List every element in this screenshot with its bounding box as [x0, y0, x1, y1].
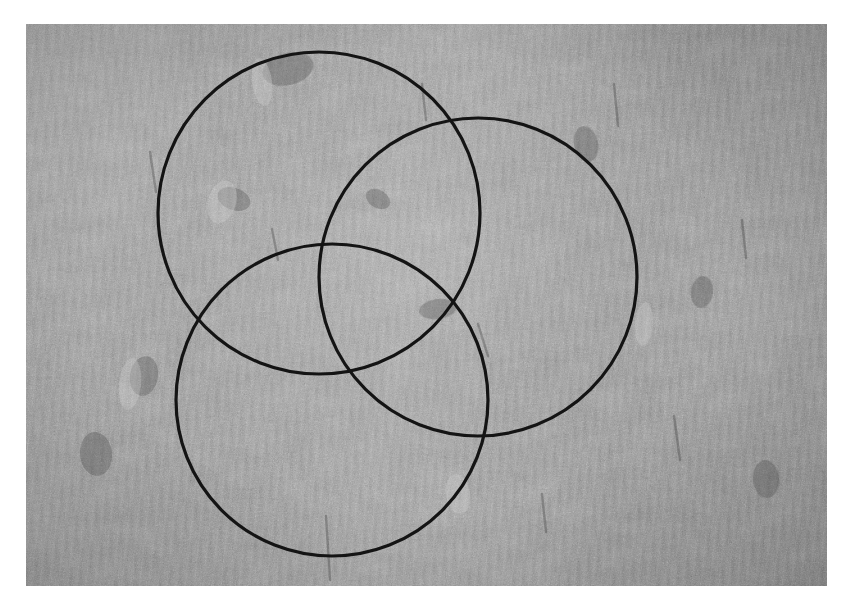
surface-impressions: [26, 24, 827, 586]
surface-photograph: [26, 24, 827, 586]
screenshot-root: [0, 0, 853, 613]
